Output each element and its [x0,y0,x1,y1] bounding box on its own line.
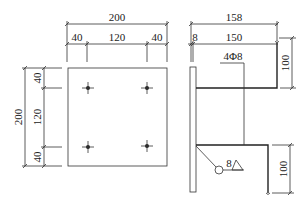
dim-total-depth: 158 [226,11,243,23]
dim-lower-hook: 100 [277,160,289,177]
dim-hole-spacing: 120 [109,31,126,43]
anchor-leader-line [220,63,244,145]
dim-right-edge: 40 [152,31,164,43]
dim-overall-width: 200 [109,11,126,23]
anchor-label: 4Φ8 [223,50,243,62]
dim-anchor-length: 150 [226,31,243,43]
embed-plate-drawing: 200 40 120 40 200 40 120 40 [0,0,308,209]
upper-anchor-bar [196,42,277,88]
hole-icon [82,141,94,153]
weld-all-around-icon [215,166,223,174]
dim-left-edge: 40 [72,31,84,43]
section-view: 158 8 150 4Φ8 100 100 8 [188,11,296,195]
dim-plate-thickness: 8 [192,31,198,43]
left-dimensions: 200 40 120 40 [12,66,62,168]
fillet-weld-icon [232,160,243,170]
hole-icon [141,82,153,94]
plate-section [190,67,196,192]
plan-view: 200 40 120 40 200 40 120 40 [12,11,169,168]
hole-icon [141,140,153,152]
dim-vertical-hole-spacing: 120 [31,108,43,125]
steel-plate-outline [68,68,167,166]
dim-overall-height: 200 [12,108,24,125]
dim-upper-hook: 100 [279,54,291,71]
section-right-dimensions: 100 100 [272,36,296,195]
dim-top-edge: 40 [31,72,43,84]
hole-icon [82,82,94,94]
anchor-holes [82,82,153,153]
weld-symbol: 8 [196,146,244,174]
weld-size: 8 [226,157,232,169]
dim-bottom-edge: 40 [31,151,43,163]
top-dimensions: 200 40 120 40 [65,11,169,62]
